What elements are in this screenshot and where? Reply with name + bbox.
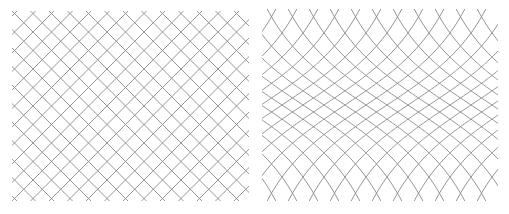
grid-line (142, 11, 250, 201)
grid-line (12, 11, 110, 201)
grid-line (262, 9, 297, 201)
grid-line (262, 9, 381, 201)
grid-line (414, 9, 498, 201)
grid-line (12, 11, 73, 201)
grid-line (351, 9, 498, 201)
grid-line (12, 11, 73, 201)
grid-line (477, 9, 498, 201)
grid-line (12, 11, 147, 201)
grid-line (262, 9, 402, 201)
grid-line (262, 9, 444, 201)
right-panel-warped-grid (262, 9, 498, 201)
grid-line (309, 9, 498, 201)
grid-line (12, 11, 184, 201)
grid-line (105, 11, 250, 201)
grid-line (262, 9, 381, 201)
grid-line (393, 9, 498, 201)
grid-line (68, 11, 250, 201)
warped-grid-graphic (262, 9, 498, 201)
grid-line (123, 11, 249, 201)
grid-line (267, 9, 465, 201)
left-panel-regular-grid (12, 11, 249, 201)
grid-line (262, 9, 444, 201)
grid-line (12, 11, 184, 201)
grid-line (309, 9, 498, 201)
grid-line (330, 9, 498, 201)
grid-line (12, 11, 36, 201)
grid-line (414, 9, 498, 201)
grid-line (262, 9, 402, 201)
grid-line (12, 11, 147, 201)
grid-line (330, 9, 498, 201)
grid-line (393, 9, 498, 201)
grid-line (86, 11, 249, 201)
regular-diagonal-grid-graphic (12, 11, 249, 201)
grid-line (197, 11, 249, 201)
grid-line (105, 11, 250, 201)
grid-line (351, 9, 498, 201)
grid-line (12, 11, 110, 201)
grid-line (86, 11, 249, 201)
grid-line (68, 11, 250, 201)
grid-line (142, 11, 250, 201)
grid-line (12, 11, 36, 201)
grid-line (262, 9, 276, 201)
grid-line (288, 9, 486, 201)
grid-line (262, 9, 318, 201)
grid-line (262, 9, 276, 201)
grid-line (123, 11, 249, 201)
grid-line (197, 11, 249, 201)
grid-line (262, 9, 297, 201)
grid-line (477, 9, 498, 201)
grid-line (262, 9, 318, 201)
